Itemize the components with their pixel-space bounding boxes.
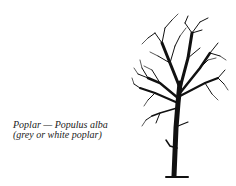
caption-line-2: (grey or white poplar): [13, 130, 108, 140]
caption: Poplar — Populus alba (grey or white pop…: [13, 120, 108, 140]
poplar-tree-icon: [130, 8, 230, 178]
